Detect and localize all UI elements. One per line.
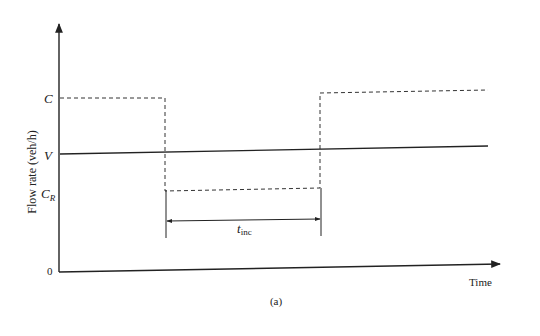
x-axis xyxy=(59,264,500,272)
incident-duration-arrow xyxy=(167,219,320,221)
x-axis-title: Time xyxy=(469,276,492,288)
incident-duration-label: tinc xyxy=(237,221,252,237)
capacity-dashed-line xyxy=(60,90,488,191)
origin-label: 0 xyxy=(47,265,53,277)
y-level-c-label: C xyxy=(44,91,53,106)
y-axis-title: Flow rate (veh/h) xyxy=(25,130,39,213)
y-level-v-label: V xyxy=(44,148,54,163)
figure-caption: (a) xyxy=(270,295,283,308)
demand-line-v xyxy=(60,146,488,154)
y-level-cr-label: CR xyxy=(41,186,56,203)
flow-diagram: C V CR 0 Flow rate (veh/h) Time tinc (a) xyxy=(0,0,540,336)
